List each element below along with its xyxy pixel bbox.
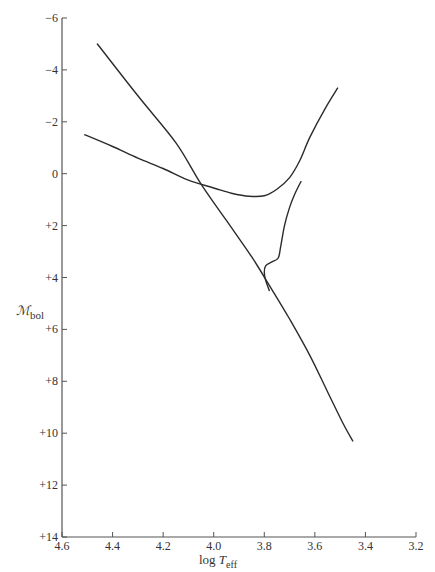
- y-tick-label: −4: [45, 63, 58, 77]
- y-tick-label: +10: [39, 426, 58, 440]
- y-tick-label: −6: [45, 11, 58, 25]
- x-tick-label: 4.6: [55, 539, 70, 553]
- y-axis-title-sub: bol: [30, 309, 44, 321]
- x-tick-label: 3.8: [257, 539, 272, 553]
- x-tick-label: 4.2: [156, 539, 171, 553]
- zams-curve: [97, 44, 352, 441]
- hr-diagram: −6−4−20+2+4+6+8+10+12+14 4.64.44.24.03.8…: [0, 0, 435, 572]
- x-tick-label: 4.4: [105, 539, 120, 553]
- y-tick-label: −2: [45, 115, 58, 129]
- y-tick-label: +8: [45, 374, 58, 388]
- x-tick-label: 4.0: [206, 539, 221, 553]
- axes: [62, 18, 416, 537]
- x-axis-title-sub: eff: [226, 559, 238, 570]
- y-tick-label: +12: [39, 478, 58, 492]
- x-ticks: 4.64.44.24.03.83.63.43.2: [55, 532, 424, 553]
- x-axis-title-main: log: [199, 552, 219, 567]
- curves: [85, 44, 353, 441]
- y-tick-label: +2: [45, 219, 58, 233]
- y-tick-label: +4: [45, 271, 58, 285]
- x-axis-title: log Teff: [199, 552, 238, 570]
- y-axis-title: ℳbol: [16, 303, 44, 321]
- x-tick-label: 3.4: [358, 539, 373, 553]
- y-tick-label: +6: [45, 322, 58, 336]
- giant-branch-curve: [85, 88, 338, 197]
- y-ticks: −6−4−20+2+4+6+8+10+12+14: [39, 11, 67, 544]
- y-tick-label: 0: [52, 167, 58, 181]
- x-tick-label: 3.6: [307, 539, 322, 553]
- x-tick-label: 3.2: [409, 539, 424, 553]
- subgiant-branch-curve: [264, 182, 301, 291]
